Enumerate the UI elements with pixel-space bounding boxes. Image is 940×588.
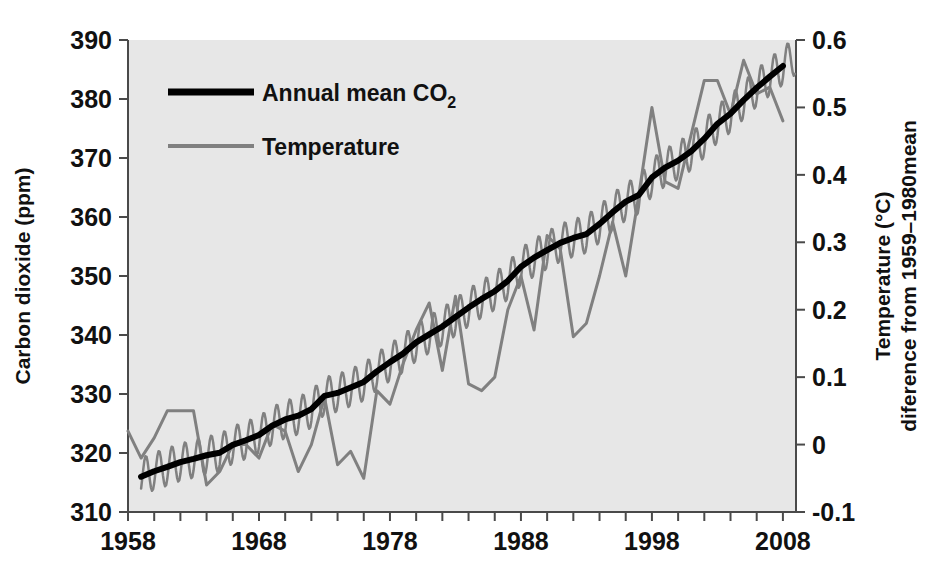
x-axis-tick-label: 1968	[231, 527, 287, 555]
x-axis-tick-label: 1998	[624, 527, 680, 555]
x-axis-tick-label: 1958	[100, 527, 156, 555]
y-axis-left-tick-label: 380	[70, 85, 112, 113]
climate-chart: 310320330340350360370380390 -0.100.10.20…	[0, 0, 940, 588]
y-axis-right-tick-label: 0.4	[812, 161, 847, 189]
y-axis-right-tick-label: -0.1	[812, 498, 855, 526]
y-axis-left-tick-label: 390	[70, 26, 112, 54]
chart-canvas: 310320330340350360370380390 -0.100.10.20…	[0, 0, 940, 588]
y-axis-left-tick-label: 310	[70, 498, 112, 526]
x-axis-tick-label: 1978	[362, 527, 418, 555]
y-axis-right-tick-label: 0.6	[812, 26, 847, 54]
y-axis-left-tick-label: 320	[70, 439, 112, 467]
legend-label-subscript: 2	[447, 94, 456, 111]
y-axis-left-tick-label: 350	[70, 262, 112, 290]
y-axis-left-tick-label: 330	[70, 380, 112, 408]
legend-label-temperature: Temperature	[262, 134, 400, 160]
x-axis-tick-label: 1988	[493, 527, 549, 555]
y-axis-left-tick-labels: 310320330340350360370380390	[70, 26, 112, 526]
y-axis-right-tick-label: 0.5	[812, 93, 847, 121]
y-axis-right-tick-label: 0.1	[812, 363, 847, 391]
y-axis-left-tick-label: 370	[70, 144, 112, 172]
y-axis-left-tick-label: 340	[70, 321, 112, 349]
y-axis-right-title-line1: Temperature (°C)	[871, 191, 894, 360]
x-axis-tick-label: 2008	[755, 527, 811, 555]
y-axis-right-tick-label: 0.3	[812, 228, 847, 256]
y-axis-left-tick-label: 360	[70, 203, 112, 231]
y-axis-left-title: Carbon dioxide (ppm)	[11, 168, 34, 385]
y-axis-right-title-line2: diference from 1959–1980mean	[897, 120, 920, 432]
y-axis-right-tick-label: 0.2	[812, 296, 847, 324]
y-axis-right-tick-label: 0	[812, 431, 826, 459]
